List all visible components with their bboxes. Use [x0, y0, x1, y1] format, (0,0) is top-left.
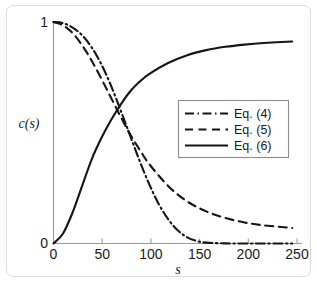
line-chart: 0 50 100 150 200 250 0 1 c(s) s Eq. (4) [0, 0, 317, 281]
x-tick-label-200: 200 [237, 246, 261, 262]
y-tick-label-1: 1 [40, 14, 48, 30]
legend-label-eq-5: Eq. (5) [234, 123, 272, 137]
caption-sliver [14, 274, 304, 281]
chart-canvas: 0 50 100 150 200 250 0 1 c(s) s Eq. (4) [0, 0, 317, 281]
x-tick-label-250: 250 [285, 246, 309, 262]
legend-label-eq-4: Eq. (4) [234, 107, 272, 121]
y-axis-tick-labels: 0 1 [40, 14, 48, 251]
legend[interactable]: Eq. (4) Eq. (5) Eq. (6) [179, 101, 289, 158]
y-tick-label-0: 0 [40, 235, 48, 251]
y-axis-title: c(s) [19, 116, 40, 132]
x-tick-label-0: 0 [50, 246, 58, 262]
x-axis-tick-labels: 0 50 100 150 200 250 [50, 246, 309, 262]
x-tick-label-100: 100 [139, 246, 163, 262]
legend-label-eq-6: Eq. (6) [234, 139, 272, 153]
x-tick-label-50: 50 [94, 246, 110, 262]
x-tick-label-150: 150 [188, 246, 212, 262]
